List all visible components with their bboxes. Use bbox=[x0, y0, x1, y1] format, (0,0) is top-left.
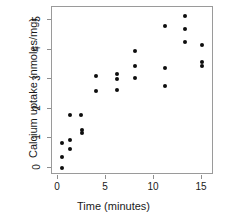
x-axis-tick bbox=[153, 175, 154, 179]
x-axis-tick bbox=[201, 175, 202, 179]
data-point bbox=[68, 147, 72, 151]
x-axis-tick bbox=[105, 175, 106, 179]
data-point bbox=[163, 24, 167, 28]
data-point bbox=[115, 88, 119, 92]
x-axis-tick-label: 5 bbox=[95, 181, 115, 192]
data-point bbox=[60, 141, 64, 145]
data-point bbox=[94, 89, 98, 93]
data-point bbox=[163, 66, 167, 70]
x-axis-tick-label: 15 bbox=[191, 181, 211, 192]
scatter-points-layer bbox=[52, 7, 212, 173]
data-point bbox=[200, 43, 204, 47]
data-point bbox=[133, 64, 137, 68]
data-point bbox=[183, 27, 187, 31]
data-point bbox=[133, 76, 137, 80]
data-point bbox=[115, 77, 119, 81]
data-point bbox=[94, 74, 98, 78]
data-point bbox=[133, 49, 137, 53]
data-point bbox=[79, 113, 83, 117]
data-point bbox=[60, 155, 64, 159]
data-point bbox=[183, 40, 187, 44]
calcium-uptake-scatter-figure: 012345 051015 Calcium uptake (nmoles/mg)… bbox=[0, 0, 227, 223]
data-point bbox=[68, 138, 72, 142]
y-axis-title: Calcium uptake (nmoles/mg) bbox=[27, 0, 39, 178]
x-axis-tick-label: 0 bbox=[47, 181, 67, 192]
plot-area bbox=[51, 6, 213, 174]
data-point bbox=[200, 64, 204, 68]
data-point bbox=[60, 166, 64, 170]
data-point bbox=[115, 72, 119, 76]
x-axis-tick bbox=[57, 175, 58, 179]
x-axis-title: Time (minutes) bbox=[0, 200, 227, 212]
data-point bbox=[200, 60, 204, 64]
data-point bbox=[68, 113, 72, 117]
data-point bbox=[183, 14, 187, 18]
data-point bbox=[163, 84, 167, 88]
x-axis-tick-label: 10 bbox=[143, 181, 163, 192]
